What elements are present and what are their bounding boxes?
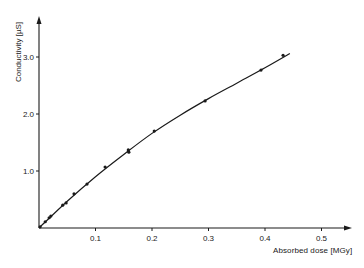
x-tick-label: 0.4	[259, 234, 270, 243]
y-axis-arrow-icon	[37, 16, 42, 24]
y-axis-title: Conductivity [µS]	[14, 22, 23, 82]
x-tick-label: 0.5	[316, 234, 327, 243]
data-point	[104, 165, 107, 168]
y-tick-label: 2.0	[23, 110, 34, 119]
axes	[36, 16, 352, 231]
x-tick-label: 0.3	[203, 234, 214, 243]
data-point	[39, 225, 42, 228]
data-points	[39, 54, 285, 229]
data-point	[259, 69, 262, 72]
x-tick-label: 0.1	[90, 234, 101, 243]
data-point	[44, 220, 47, 223]
x-tick-label: 0.2	[146, 234, 157, 243]
data-point	[61, 204, 64, 207]
data-point	[85, 183, 88, 186]
data-point	[153, 130, 156, 133]
data-point	[204, 99, 207, 102]
data-point	[65, 201, 68, 204]
x-axis-arrow-icon	[344, 226, 352, 231]
chart-canvas	[0, 0, 364, 268]
curve-path	[39, 54, 290, 228]
data-point	[72, 192, 75, 195]
y-tick-label: 1.0	[23, 167, 34, 176]
y-tick-label: 3.0	[23, 53, 34, 62]
x-axis-title: Absorbed dose [MGy]	[273, 246, 352, 255]
data-point	[49, 214, 52, 217]
data-point	[127, 151, 130, 154]
fitted-curve	[39, 54, 290, 228]
data-point	[281, 54, 284, 57]
